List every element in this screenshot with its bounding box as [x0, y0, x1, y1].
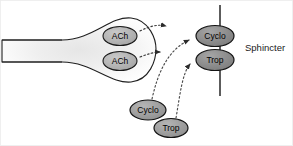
receptor-trop: Trop [196, 50, 234, 71]
vesicle-ach-2-label: ACh [112, 56, 129, 66]
terminal-bouton-outline [2, 18, 156, 82]
sphincter-label: Sphincter [245, 42, 285, 53]
vesicle-ach-1-label: ACh [112, 31, 129, 41]
diagram-canvas: ACh ACh Cyclo Trop Cyclo Trop Sphincter [0, 0, 293, 146]
free-molecule-cyclo: Cyclo [130, 100, 166, 120]
free-molecule-trop-label: Trop [162, 123, 179, 133]
synapse-diagram: ACh ACh Cyclo Trop Cyclo Trop Sphincter [0, 0, 293, 146]
free-molecule-trop: Trop [154, 119, 188, 138]
receptor-trop-label: Trop [206, 55, 223, 65]
receptor-cyclo-label: Cyclo [204, 31, 226, 41]
vesicle-ach-2: ACh [103, 52, 137, 71]
arrow-trop-binding [176, 64, 190, 118]
vesicle-ach-1: ACh [103, 27, 137, 46]
free-molecule-cyclo-label: Cyclo [137, 105, 159, 115]
receptor-cyclo: Cyclo [196, 26, 234, 47]
nerve-terminal [2, 18, 156, 82]
arrow-cyclo-binding [152, 40, 189, 99]
